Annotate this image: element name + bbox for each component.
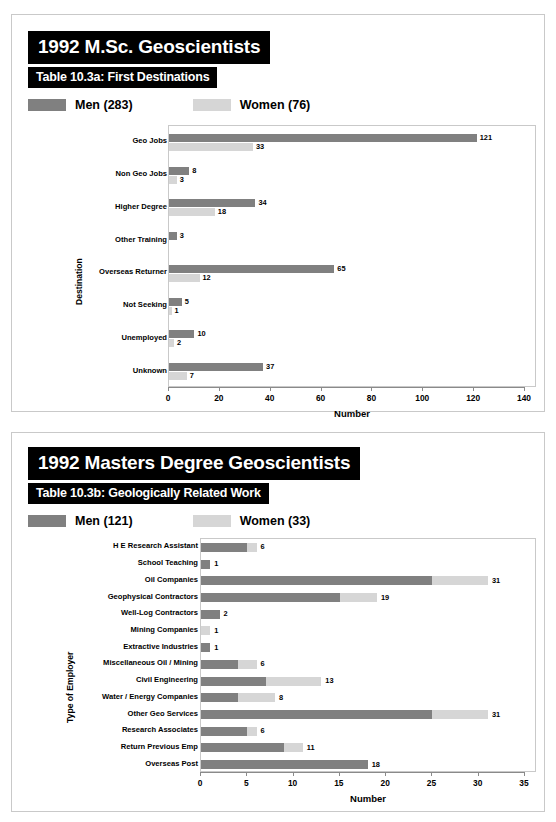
x-axis-tick-label: 15 xyxy=(324,778,354,788)
x-axis-tick-label: 30 xyxy=(463,778,493,788)
x-axis-tick-label: 35 xyxy=(509,778,539,788)
panel-a-x-axis-label: Number xyxy=(168,408,536,419)
x-axis-tick-label: 10 xyxy=(278,778,308,788)
panel-b-title-wrap: 1992 Masters Degree Geoscientists xyxy=(28,447,360,480)
category-label: Other Geo Services xyxy=(68,710,198,718)
x-axis-tick xyxy=(270,387,271,391)
legend-item-men: Men (121) xyxy=(28,514,133,528)
bar-men xyxy=(169,265,334,273)
legend-swatch-men-icon xyxy=(28,99,66,111)
x-axis-tick-label: 0 xyxy=(153,393,183,403)
bar-total-label: 11 xyxy=(307,744,315,752)
x-axis-tick xyxy=(524,772,525,776)
category-label: Overseas Returner xyxy=(72,268,167,276)
bar-men xyxy=(169,330,194,338)
x-axis-tick-label: 120 xyxy=(458,393,488,403)
x-axis-tick-label: 140 xyxy=(509,393,539,403)
panel-a-plot-area: 121338334183651251102377 xyxy=(168,125,536,387)
bar-total-label: 18 xyxy=(372,761,380,769)
panel-first-destinations: 1992 M.Sc. Geoscientists Table 10.3a: Fi… xyxy=(11,14,545,412)
bar-value-label: 3 xyxy=(180,176,184,184)
bar-value-label: 5 xyxy=(185,298,189,306)
bar-value-label: 12 xyxy=(203,274,211,282)
x-axis-tick xyxy=(246,772,247,776)
legend-swatch-men-icon xyxy=(28,515,66,527)
category-label: Well-Log Contractors xyxy=(68,609,198,617)
bar-total-label: 1 xyxy=(214,644,218,652)
bar-segment-men xyxy=(201,760,368,769)
bar-men xyxy=(169,199,255,207)
bar-women xyxy=(169,274,200,282)
x-axis-tick-label: 60 xyxy=(306,393,336,403)
bar-value-label: 7 xyxy=(190,372,194,380)
category-label: Miscellaneous Oil / Mining xyxy=(68,659,198,667)
legend-item-women: Women (33) xyxy=(193,514,311,528)
x-axis-tick xyxy=(200,772,201,776)
legend-item-women: Women (76) xyxy=(193,98,311,112)
bar-segment-men xyxy=(201,710,432,719)
bar-women xyxy=(169,307,172,315)
bar-value-label: 34 xyxy=(258,199,266,207)
bar-segment-men xyxy=(201,593,340,602)
legend-label-women: Women (76) xyxy=(240,98,311,112)
bar-segment-women xyxy=(340,593,377,602)
bar-total-label: 1 xyxy=(214,627,218,635)
x-axis-tick-label: 5 xyxy=(231,778,261,788)
x-axis-tick-label: 40 xyxy=(255,393,285,403)
legend-swatch-women-icon xyxy=(193,99,231,111)
category-label: Geo Jobs xyxy=(72,137,167,145)
bar-women xyxy=(169,339,174,347)
panel-b-sub-title-wrap: Table 10.3b: Geologically Related Work xyxy=(28,483,269,504)
bar-total-label: 31 xyxy=(492,577,500,585)
bar-segment-women xyxy=(238,660,257,669)
bar-value-label: 8 xyxy=(192,167,196,175)
bar-segment-men xyxy=(201,677,266,686)
x-axis-tick xyxy=(524,387,525,391)
bar-segment-women xyxy=(284,743,303,752)
bar-total-label: 13 xyxy=(325,677,333,685)
bar-value-label: 3 xyxy=(180,232,184,240)
panel-b-category-labels: H E Research AssistantSchool TeachingOil… xyxy=(68,538,198,770)
category-label: Extractive Industries xyxy=(68,643,198,651)
bar-total-label: 8 xyxy=(279,694,283,702)
x-axis-tick-label: 100 xyxy=(407,393,437,403)
bar-value-label: 1 xyxy=(175,307,179,315)
panel-b-x-axis-label: Number xyxy=(200,793,536,804)
bar-segment-women xyxy=(247,727,256,736)
x-axis-tick xyxy=(478,772,479,776)
x-axis-tick xyxy=(321,387,322,391)
category-label: H E Research Assistant xyxy=(68,542,198,550)
bar-value-label: 65 xyxy=(337,265,345,273)
category-label: Oil Companies xyxy=(68,576,198,584)
category-label: Return Previous Emp xyxy=(68,743,198,751)
bar-segment-men xyxy=(201,727,247,736)
x-axis-tick xyxy=(431,772,432,776)
x-axis-tick xyxy=(422,387,423,391)
x-axis-tick xyxy=(293,772,294,776)
bar-segment-women xyxy=(432,576,488,585)
x-axis-tick xyxy=(168,387,169,391)
bar-women xyxy=(169,176,177,184)
category-label: Overseas Post xyxy=(68,760,198,768)
panel-a-sub-title-wrap: Table 10.3a: First Destinations xyxy=(28,67,217,88)
bar-men xyxy=(169,134,477,142)
x-axis-tick xyxy=(473,387,474,391)
bar-value-label: 37 xyxy=(266,363,274,371)
x-axis-tick-label: 0 xyxy=(185,778,215,788)
bar-segment-men xyxy=(201,610,220,619)
x-axis-tick xyxy=(385,772,386,776)
bar-value-label: 10 xyxy=(197,330,205,338)
panel-a-category-labels: Geo JobsNon Geo JobsHigher DegreeOther T… xyxy=(72,125,167,385)
bar-total-label: 6 xyxy=(261,543,265,551)
x-axis-tick-label: 20 xyxy=(370,778,400,788)
bar-segment-men xyxy=(201,660,238,669)
panel-b-main-title: 1992 Masters Degree Geoscientists xyxy=(28,447,360,480)
bar-total-label: 31 xyxy=(492,711,500,719)
bar-value-label: 2 xyxy=(177,339,181,347)
panel-geologically-related-work: 1992 Masters Degree Geoscientists Table … xyxy=(11,432,545,812)
panel-a-legend: Men (283) Women (76) xyxy=(28,98,310,112)
bar-segment-men xyxy=(201,543,247,552)
bar-segment-women xyxy=(432,710,488,719)
bar-value-label: 18 xyxy=(218,208,226,216)
bar-total-label: 2 xyxy=(224,610,228,618)
